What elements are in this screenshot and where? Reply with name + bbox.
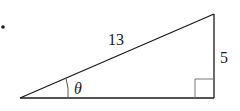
hypotenuse-side (20, 14, 214, 98)
triangle-diagram: 13 5 θ (0, 0, 240, 111)
opposite-label: 5 (220, 49, 228, 66)
hypotenuse-label: 13 (108, 31, 124, 48)
angle-theta-label: θ (74, 80, 82, 97)
angle-arc (66, 79, 68, 99)
right-angle-marker (195, 79, 214, 98)
bullet-dot (1, 25, 5, 29)
